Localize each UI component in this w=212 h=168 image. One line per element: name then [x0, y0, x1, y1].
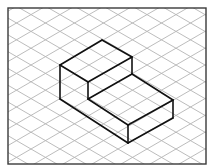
- isometric-diagram: [0, 0, 212, 168]
